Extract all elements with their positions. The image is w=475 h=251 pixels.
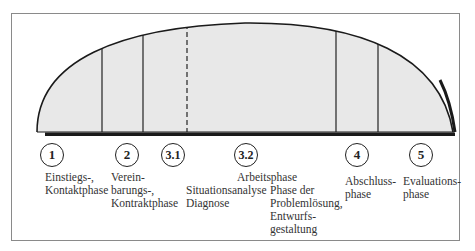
phase-1-number: 1: [40, 143, 64, 167]
arbeitsphase-label: Arbeitsphase: [237, 171, 297, 184]
baseline-shadow: [45, 133, 455, 137]
phase-2-label: Verein- barungs-, Kontraktphase: [111, 171, 178, 210]
phase-4-number: 4: [345, 143, 369, 167]
phase-3.1-number: 3.1: [161, 143, 185, 167]
phase-2-number: 2: [115, 143, 139, 167]
phase-1-label: Einstiegs-, Kontaktphase: [45, 171, 108, 197]
phase-arc: [0, 0, 475, 251]
phase-4-label: Abschluss- phase: [345, 175, 396, 201]
phase-5-number: 5: [409, 143, 433, 167]
phase-3.2-number: 3.2: [234, 143, 258, 167]
arc-fill: [37, 23, 453, 132]
phase-5-label: Evaluations- phase: [403, 175, 461, 201]
phase-3.2-label: Phase der Problemlösung, Entwurfs- gesta…: [270, 184, 343, 236]
phase-3.1-label: Situationsanalyse Diagnose: [186, 184, 267, 210]
